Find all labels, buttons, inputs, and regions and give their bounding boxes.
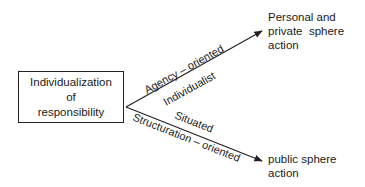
target-public-sphere-action: public sphere action bbox=[268, 152, 336, 180]
target-line: action bbox=[268, 38, 344, 52]
target-line: Personal and bbox=[268, 10, 344, 24]
source-node-line-1: Individualization bbox=[30, 75, 112, 90]
source-node-line-2: of bbox=[66, 90, 76, 105]
target-line: action bbox=[268, 166, 336, 180]
target-personal-private-sphere-action: Personal and private sphere action bbox=[268, 10, 344, 52]
target-line: public sphere bbox=[268, 152, 336, 166]
target-line: private sphere bbox=[268, 24, 344, 38]
source-node-individualization-of-responsibility: Individualization of responsibility bbox=[18, 71, 124, 123]
source-node-line-3: responsibility bbox=[38, 105, 104, 120]
